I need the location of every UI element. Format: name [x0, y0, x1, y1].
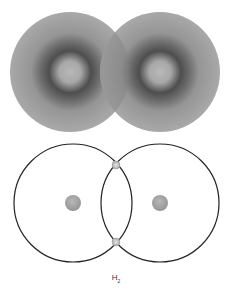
nucleus-right	[152, 195, 168, 211]
molecule-label: H2	[0, 273, 228, 284]
shared-electron-bottom	[112, 238, 120, 246]
electron-cloud-panel	[10, 12, 220, 132]
nucleus-left	[65, 195, 81, 211]
orbit-diagram-panel	[14, 144, 219, 262]
shared-electron-top	[112, 161, 120, 169]
h2-diagram	[0, 0, 228, 292]
label-subscript: 2	[118, 278, 121, 284]
